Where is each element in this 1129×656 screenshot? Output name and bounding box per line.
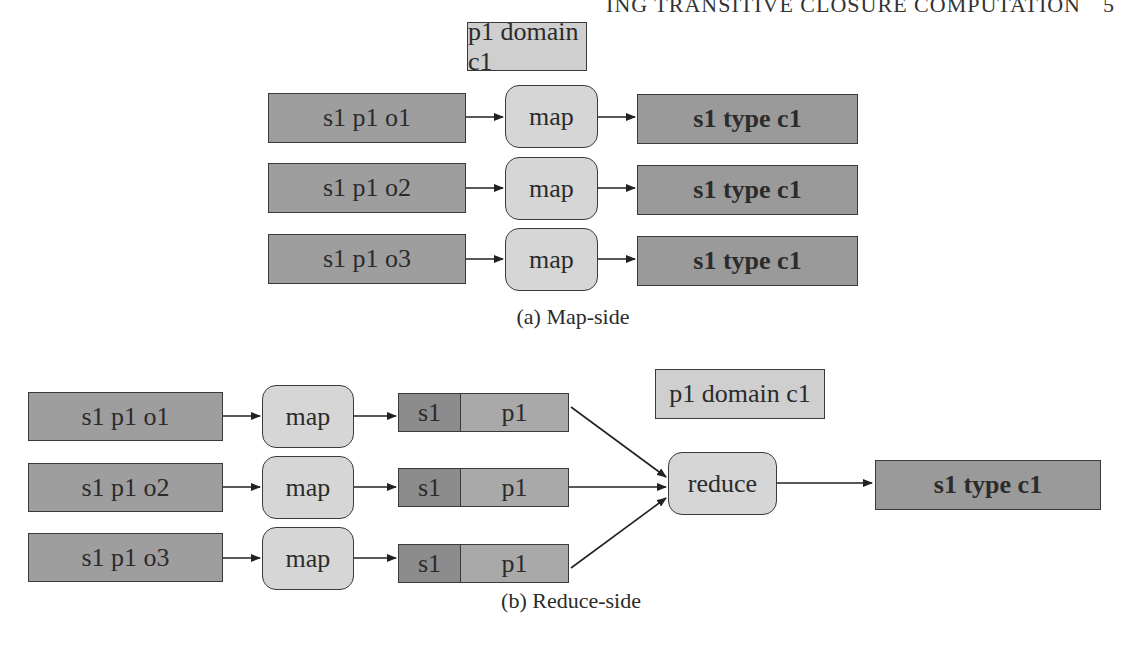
output-triple-box: s1 type c1 [637, 94, 858, 144]
map-function-box: map [505, 157, 598, 220]
output-triple-box: s1 type c1 [637, 236, 858, 286]
figure-a-caption: (a) Map-side [516, 304, 629, 330]
map-function-box: map [262, 385, 354, 448]
key-value-pair-box: s1 p1 [398, 468, 569, 507]
arrow-pair1-reduce [571, 407, 666, 477]
figure-b-caption: (b) Reduce-side [501, 588, 641, 614]
output-triple-box: s1 type c1 [637, 165, 858, 215]
arrow-pair3-reduce [571, 498, 666, 568]
schema-triple-box: p1 domain c1 [467, 22, 587, 71]
map-function-box: map [262, 527, 354, 590]
key-value-pair-box: s1 p1 [398, 393, 569, 432]
pair-value: p1 [461, 394, 568, 431]
map-function-box: map [505, 85, 598, 148]
key-value-pair-box: s1 p1 [398, 544, 569, 583]
pair-value: p1 [461, 545, 568, 582]
input-triple-box: s1 p1 o1 [28, 392, 223, 441]
pair-key: s1 [399, 394, 461, 431]
pair-key: s1 [399, 469, 461, 506]
input-triple-box: s1 p1 o3 [268, 234, 466, 284]
output-triple-box: s1 type c1 [875, 460, 1101, 510]
input-triple-box: s1 p1 o2 [28, 463, 223, 512]
schema-triple-box: p1 domain c1 [655, 369, 825, 419]
map-function-box: map [262, 456, 354, 519]
input-triple-box: s1 p1 o1 [268, 93, 466, 143]
reduce-function-box: reduce [668, 452, 777, 515]
pair-value: p1 [461, 469, 568, 506]
map-function-box: map [505, 228, 598, 291]
pair-key: s1 [399, 545, 461, 582]
input-triple-box: s1 p1 o3 [28, 533, 223, 582]
input-triple-box: s1 p1 o2 [268, 163, 466, 213]
